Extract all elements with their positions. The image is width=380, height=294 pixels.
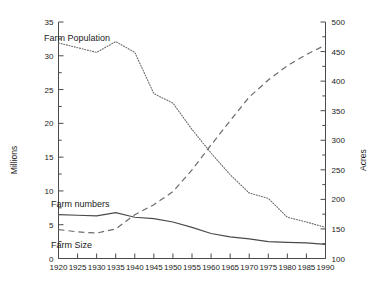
- x-tick-label: 1920: [50, 263, 68, 272]
- x-tick-label: 1980: [278, 263, 296, 272]
- left-axis-title: Millions: [9, 146, 19, 174]
- series-label-farm-numbers: Farm numbers: [51, 199, 110, 209]
- right-tick-label: 200: [332, 195, 346, 204]
- chart-axes: [59, 22, 326, 259]
- left-axis-ticks: [59, 22, 64, 259]
- right-tick-label: 500: [332, 18, 346, 27]
- x-tick-label: 1940: [126, 263, 144, 272]
- left-tick-label: 25: [45, 86, 54, 95]
- series-label-farm-size: Farm Size: [51, 240, 92, 250]
- left-tick-label: 30: [45, 52, 54, 61]
- x-tick-label: 1960: [202, 263, 220, 272]
- left-axis-tick-labels: 05101520253035: [45, 18, 54, 264]
- series-line-farm-numbers: [59, 213, 326, 245]
- left-tick-label: 20: [45, 119, 54, 128]
- x-tick-label: 1945: [145, 263, 163, 272]
- right-tick-label: 400: [332, 77, 346, 86]
- x-tick-label: 1935: [107, 263, 125, 272]
- right-tick-label: 350: [332, 107, 346, 116]
- x-tick-label: 1925: [69, 263, 87, 272]
- left-tick-label: 10: [45, 187, 54, 196]
- x-tick-label: 1985: [298, 263, 316, 272]
- left-tick-label: 35: [45, 18, 54, 27]
- chart-series-group: [59, 42, 326, 245]
- right-tick-label: 150: [332, 225, 346, 234]
- x-axis-ticks: [59, 254, 326, 259]
- farm-trends-chart: 05101520253035 1001502002503003504004505…: [0, 0, 380, 294]
- chart-svg: 05101520253035 1001502002503003504004505…: [0, 0, 380, 294]
- x-tick-label: 1955: [183, 263, 201, 272]
- x-tick-label: 1930: [88, 263, 106, 272]
- right-axis-title: Acres: [358, 149, 368, 171]
- x-tick-label: 1990: [317, 263, 335, 272]
- series-label-farm-population: Farm Population: [44, 33, 110, 43]
- left-tick-label: 15: [45, 153, 54, 162]
- left-tick-label: 5: [49, 221, 54, 230]
- right-axis-ticks: [321, 22, 326, 259]
- x-axis-tick-labels: 1920192519301935194019451950195519601965…: [50, 263, 335, 272]
- right-tick-label: 450: [332, 48, 346, 57]
- right-tick-label: 300: [332, 136, 346, 145]
- x-tick-label: 1965: [221, 263, 239, 272]
- x-tick-label: 1970: [240, 263, 258, 272]
- x-tick-label: 1950: [164, 263, 182, 272]
- x-tick-label: 1975: [259, 263, 277, 272]
- right-axis-tick-labels: 100150200250300350400450500: [332, 18, 346, 264]
- right-tick-label: 250: [332, 166, 346, 175]
